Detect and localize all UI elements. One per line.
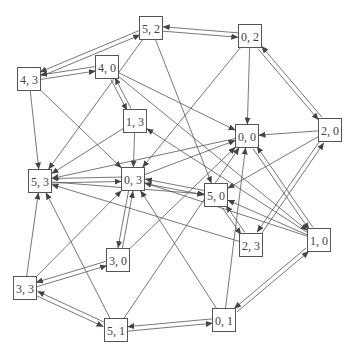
node-5-1: 5, 1 (105, 319, 128, 342)
node-label: 2, 3 (242, 239, 260, 253)
node-0-2: 0, 2 (239, 25, 262, 48)
node-label: 0, 0 (238, 130, 256, 144)
edge-5-2-to-5-0 (155, 40, 211, 184)
node-0-0: 0, 0 (236, 125, 259, 148)
edge-3-0-to-0-3 (122, 191, 133, 249)
node-label: 0, 1 (215, 314, 233, 328)
edge-0-3-to-0-0 (145, 140, 236, 174)
edge-5-1-to-0-1 (128, 323, 213, 331)
node-3-0: 3, 0 (107, 249, 130, 272)
node-label: 5, 2 (142, 22, 160, 36)
node-label: 4, 0 (98, 61, 116, 75)
edge-1-3-to-4-0 (115, 77, 131, 108)
edge-4-3-to-4-0 (41, 71, 96, 79)
edge-4-3-to-5-3 (30, 91, 39, 170)
edge-0-3-to-5-0 (144, 183, 204, 195)
edge-2-0-to-2-3 (257, 140, 320, 232)
node-label: 3, 3 (16, 282, 34, 296)
edge-3-3-to-5-1 (36, 295, 104, 326)
node-4-3: 4, 3 (18, 68, 41, 91)
node-1-3: 1, 3 (124, 110, 147, 133)
edge-layer (27, 27, 324, 331)
edge-5-1-to-3-3 (37, 291, 105, 322)
node-layer: 5, 20, 24, 34, 01, 30, 02, 05, 30, 35, 0… (14, 17, 342, 342)
edge-0-0-to-1-0 (253, 149, 309, 230)
edge-0-1-to-0-3 (140, 191, 216, 309)
node-4-0: 4, 0 (96, 56, 119, 79)
node-5-2: 5, 2 (140, 17, 163, 40)
edge-1-0-to-1-3 (147, 128, 308, 232)
node-label: 0, 3 (124, 173, 142, 187)
edge-4-0-to-4-3 (40, 67, 95, 75)
edge-4-3-to-0-3 (41, 90, 122, 168)
node-label: 0, 2 (241, 30, 259, 44)
edge-4-0-to-1-3 (111, 80, 127, 111)
node-label: 3, 0 (109, 254, 127, 268)
node-label: 5, 1 (107, 324, 125, 338)
edge-0-1-to-5-1 (127, 319, 212, 327)
edge-1-0-to-0-0 (257, 146, 313, 227)
edge-0-3-to-3-0 (118, 190, 129, 248)
node-0-3: 0, 3 (122, 168, 145, 191)
edge-0-1-to-1-0 (237, 251, 309, 312)
node-label: 1, 3 (126, 115, 144, 129)
node-2-0: 2, 0 (319, 119, 342, 142)
node-5-3: 5, 3 (29, 170, 52, 193)
node-label: 5, 0 (207, 189, 225, 203)
node-1-0: 1, 0 (308, 229, 331, 252)
node-5-0: 5, 0 (205, 184, 228, 207)
edge-3-3-to-3-0 (37, 266, 107, 287)
edge-0-2-to-2-0 (258, 49, 318, 120)
node-label: 1, 0 (310, 234, 328, 248)
edge-3-3-to-5-3 (27, 193, 39, 277)
edge-2-0-to-0-0 (259, 131, 319, 135)
node-0-1: 0, 1 (213, 309, 236, 332)
directed-graph: 5, 20, 24, 34, 01, 30, 02, 05, 30, 35, 0… (0, 0, 349, 356)
edge-2-0-to-0-2 (261, 46, 321, 117)
edge-2-3-to-2-0 (261, 143, 324, 235)
edge-1-3-to-0-3 (133, 133, 134, 168)
node-2-3: 2, 3 (240, 234, 263, 257)
edge-4-3-to-5-2 (41, 35, 140, 76)
edge-1-0-to-0-1 (234, 248, 306, 309)
edge-5-0-to-2-3 (222, 208, 241, 235)
edge-0-3-to-5-3 (51, 177, 121, 179)
node-label: 5, 3 (31, 175, 49, 189)
edge-0-2-to-0-0 (247, 48, 249, 125)
node-label: 4, 3 (20, 73, 38, 87)
node-3-3: 3, 3 (14, 277, 37, 300)
edge-3-0-to-3-3 (36, 261, 106, 282)
node-label: 2, 0 (321, 124, 339, 138)
